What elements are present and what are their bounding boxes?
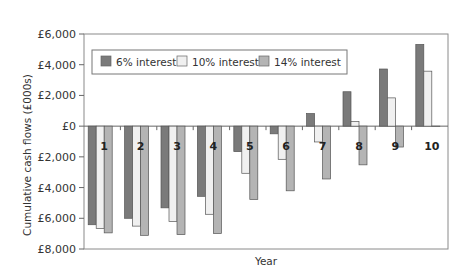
y-tick-label: £6,000 [38, 28, 77, 41]
y-tick-label: £4,000 [38, 59, 77, 72]
bar-10-interest-year-9 [387, 98, 395, 126]
bar-6-interest-year-3 [161, 126, 169, 208]
year-label: 3 [173, 140, 181, 153]
bar-6-interest-year-5 [234, 126, 242, 151]
cash-flow-chart: £6,000£4,000£2,000£0£2,000£4,000£6,000£8… [0, 0, 467, 277]
bar-10-interest-year-8 [351, 121, 359, 126]
bar-6-interest-year-1 [88, 126, 96, 225]
year-label: 8 [355, 140, 363, 153]
bar-6-interest-year-8 [343, 92, 351, 126]
bar-6-interest-year-4 [197, 126, 205, 196]
bar-6-interest-year-9 [379, 69, 387, 126]
bar-6-interest-year-2 [125, 126, 133, 218]
legend-swatch [177, 56, 187, 66]
year-label: 10 [424, 140, 440, 153]
y-tick-label: £0 [62, 120, 76, 133]
year-label: 9 [392, 140, 400, 153]
legend-swatch [259, 56, 269, 66]
x-axis-title: Year [254, 255, 278, 267]
y-tick-label: £6,000 [38, 212, 77, 225]
y-tick-label: £2,000 [38, 151, 77, 164]
bar-14-interest-year-6 [286, 126, 294, 191]
year-label: 5 [246, 140, 254, 153]
bar-10-interest-year-10 [424, 71, 432, 126]
bar-6-interest-year-10 [416, 44, 424, 126]
bar-14-interest-year-5 [250, 126, 258, 199]
year-label: 1 [100, 140, 108, 153]
year-label: 7 [319, 140, 327, 153]
bar-14-interest-year-10 [432, 126, 440, 127]
legend-label: 10% interest [192, 56, 259, 68]
y-tick-label: £2,000 [38, 89, 77, 102]
year-label: 4 [210, 140, 218, 153]
legend-label: 6% interest [116, 56, 176, 68]
legend-swatch [101, 56, 111, 66]
legend: 6% interest10% interest14% interest [92, 50, 347, 74]
y-tick-label: £4,000 [38, 182, 77, 195]
bar-6-interest-year-7 [307, 114, 315, 127]
year-label: 2 [137, 140, 145, 153]
y-tick-label: £8,000 [38, 243, 77, 256]
y-axis-title: Cumulative cash flows (£000s) [21, 74, 33, 236]
year-label: 6 [282, 140, 290, 153]
bar-6-interest-year-6 [270, 126, 278, 134]
legend-label: 14% interest [274, 56, 341, 68]
